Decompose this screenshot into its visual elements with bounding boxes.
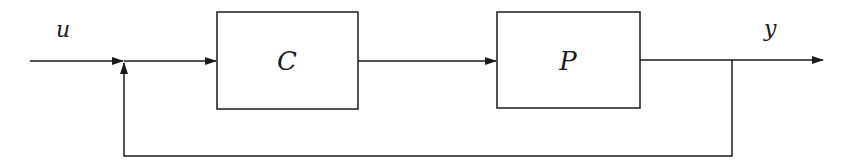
controller-label: C [277, 46, 297, 76]
plant-block: P [497, 12, 640, 108]
block-diagram: u C P y [0, 0, 859, 168]
input-label-u: u [56, 17, 70, 42]
feedback-path [124, 60, 732, 156]
plant-label: P [558, 46, 577, 76]
output-label-y: y [763, 16, 777, 41]
controller-block: C [217, 12, 358, 109]
